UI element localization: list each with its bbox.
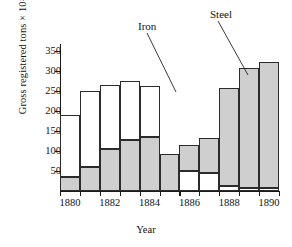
bar-1884 — [140, 86, 160, 191]
bar-series-area — [60, 44, 279, 191]
bar-segment-steel-1886 — [179, 145, 199, 171]
x-tick-mark-6 — [179, 191, 180, 196]
x-tick-mark-5 — [160, 191, 161, 196]
x-tick-label-1886: 1886 — [168, 197, 210, 208]
bar-1881 — [80, 91, 100, 191]
bar-segment-steel-1883 — [120, 140, 140, 191]
y-axis-title-exponent: 3 — [18, 0, 26, 1]
y-axis-title-text: Gross registered tons × 10 — [17, 1, 28, 114]
x-axis-line — [60, 191, 279, 192]
bar-segment-iron-1882 — [100, 85, 120, 149]
bar-segment-steel-1890 — [259, 62, 279, 189]
bar-segment-steel-1887 — [199, 138, 219, 173]
y-tick-300: 300 — [0, 66, 61, 77]
y-tick-350: 350 — [0, 46, 61, 57]
bar-segment-steel-1881 — [80, 167, 100, 191]
annotation-label-iron: Iron — [138, 20, 156, 32]
y-tick-150: 150 — [0, 126, 61, 137]
bar-segment-iron-1890 — [259, 188, 279, 191]
x-tick-mark-9 — [239, 191, 240, 196]
bar-segment-steel-1889 — [239, 68, 259, 188]
bar-1886 — [179, 145, 199, 191]
bar-segment-iron-1889 — [239, 188, 259, 191]
bar-1883 — [120, 81, 140, 191]
bar-1880 — [60, 115, 80, 191]
bar-1882 — [100, 85, 120, 191]
annotation-label-steel: Steel — [210, 8, 232, 20]
bar-segment-steel-1885 — [160, 154, 180, 191]
x-tick-mark-10 — [259, 191, 260, 196]
bar-segment-steel-1882 — [100, 149, 120, 191]
x-tick-label-1890: 1890 — [248, 197, 290, 208]
bar-1888 — [219, 88, 239, 191]
x-tick-label-1880: 1880 — [49, 197, 91, 208]
x-tick-mark-11 — [279, 191, 280, 196]
bar-segment-iron-1883 — [120, 81, 140, 140]
x-axis-title: Year — [0, 224, 292, 235]
bar-1890 — [259, 62, 279, 191]
bar-segment-steel-1888 — [219, 88, 239, 186]
x-tick-mark-2 — [100, 191, 101, 196]
x-tick-mark-8 — [219, 191, 220, 196]
x-tick-label-1882: 1882 — [89, 197, 131, 208]
x-tick-label-1884: 1884 — [129, 197, 171, 208]
x-tick-mark-0 — [60, 191, 61, 196]
bar-segment-iron-1888 — [219, 186, 239, 191]
x-tick-mark-3 — [120, 191, 121, 196]
y-tick-50: 50 — [0, 166, 61, 177]
bar-segment-iron-1886 — [179, 171, 199, 191]
bar-segment-iron-1881 — [80, 91, 100, 166]
bar-segment-steel-1880 — [60, 177, 80, 192]
x-tick-mark-7 — [199, 191, 200, 196]
bar-segment-iron-1884 — [140, 86, 160, 138]
bar-segment-iron-1880 — [60, 115, 80, 176]
x-tick-mark-1 — [80, 191, 81, 196]
bar-segment-iron-1887 — [199, 173, 219, 191]
bar-1889 — [239, 68, 259, 191]
y-tick-250: 250 — [0, 86, 61, 97]
x-tick-mark-4 — [140, 191, 141, 196]
bar-1885 — [160, 154, 180, 191]
bar-segment-steel-1884 — [140, 137, 160, 191]
chart-canvas: Gross registered tons × 103 350 300 250 … — [0, 0, 292, 247]
y-tick-100: 100 — [0, 146, 61, 157]
bar-1887 — [199, 138, 219, 191]
x-tick-label-1888: 1888 — [208, 197, 250, 208]
y-tick-200: 200 — [0, 106, 61, 117]
